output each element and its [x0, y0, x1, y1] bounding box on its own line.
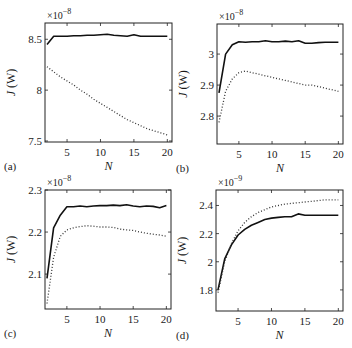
x-tick-label: 5	[64, 146, 70, 158]
x-tick-label: 20	[333, 148, 345, 160]
x-tick-label: 10	[266, 315, 278, 327]
y-tick-label: 3	[209, 48, 215, 60]
y-tick-label: 2.3	[28, 184, 42, 196]
panel-label: (d)	[176, 329, 189, 342]
x-tick-label: 10	[95, 146, 107, 158]
x-tick-label: 5	[236, 148, 242, 160]
axes-box	[45, 23, 172, 142]
y-tick-label: 2.1	[28, 268, 42, 280]
solid-line	[219, 41, 338, 93]
scale-label: ×10−9	[218, 174, 242, 188]
y-tick-label: 1.8	[199, 284, 213, 296]
x-axis-label: N	[103, 159, 113, 173]
x-tick-label: 15	[128, 146, 140, 158]
x-tick-label: 10	[95, 313, 107, 325]
panel-label: (b)	[176, 162, 189, 175]
x-tick-label: 20	[162, 146, 174, 158]
y-axis-label: J (W)	[4, 236, 18, 264]
x-tick-label: 10	[267, 148, 279, 160]
dotted-line	[218, 200, 338, 293]
y-axis-label: J (W)	[4, 69, 18, 97]
x-tick-label: 15	[299, 315, 311, 327]
panel-label: (c)	[4, 327, 17, 340]
x-axis-label: N	[103, 326, 113, 340]
dotted-line	[47, 67, 167, 135]
y-tick-label: 2.8	[200, 110, 214, 122]
axes-box	[45, 190, 171, 309]
x-axis-label: N	[274, 328, 284, 342]
solid-line	[218, 214, 338, 290]
y-tick-label: 2.2	[199, 228, 213, 240]
x-tick-label: 15	[128, 313, 140, 325]
subplot-d: 51015201.822.22.4×10−9NJ (W)(d)	[175, 174, 344, 342]
y-axis-label: J (W)	[176, 70, 190, 98]
axes-box	[216, 190, 343, 311]
panel-label: (a)	[4, 160, 17, 173]
dotted-line	[47, 226, 166, 304]
dotted-line	[219, 71, 338, 122]
scale-label: ×10−8	[219, 8, 243, 22]
scale-label: ×10−8	[47, 7, 71, 21]
scale-label: ×10−8	[47, 174, 71, 188]
solid-line	[47, 34, 167, 44]
y-axis-label: J (W)	[175, 237, 189, 265]
x-tick-label: 5	[64, 313, 70, 325]
x-tick-label: 20	[333, 315, 345, 327]
subplot-c: 51015202.12.22.3×10−8NJ (W)(c)	[4, 174, 172, 340]
y-tick-label: 2.2	[28, 226, 42, 238]
subplot-a: 51015207.588.5×10−8NJ (W)(a)	[4, 7, 173, 173]
x-tick-label: 15	[300, 148, 312, 160]
y-tick-label: 7.5	[28, 135, 42, 147]
y-tick-label: 2.9	[200, 79, 214, 91]
x-axis-label: N	[275, 161, 285, 175]
y-tick-label: 2	[208, 256, 214, 268]
subplot-b: 51015202.82.93×10−8NJ (W)(b)	[176, 8, 344, 175]
y-tick-label: 8.5	[28, 33, 42, 45]
y-tick-label: 2.4	[199, 199, 213, 211]
x-tick-label: 20	[161, 313, 173, 325]
y-tick-label: 8	[37, 84, 43, 96]
solid-line	[47, 205, 166, 279]
x-tick-label: 5	[235, 315, 241, 327]
figure: 51015207.588.5×10−8NJ (W)(a)51015202.82.…	[0, 0, 352, 348]
